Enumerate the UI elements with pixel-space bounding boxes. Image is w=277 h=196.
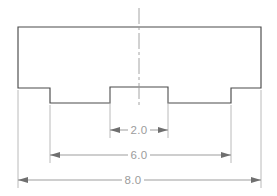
arrow-head-left-6-0 [50,152,60,158]
arrow-head-left-8-0 [18,177,28,183]
arrow-head-left-2-0 [110,127,120,133]
dimension-6-0: 6.0 [50,149,231,161]
dimension-text-2-0: 2.0 [130,124,147,136]
engineering-drawing-canvas: 2.0 6.0 8.0 [0,0,277,196]
arrow-head-right-2-0 [158,127,168,133]
dimension-text-6-0: 6.0 [130,149,147,161]
dimension-2-0: 2.0 [110,124,168,136]
dimension-8-0: 8.0 [18,174,261,186]
arrow-head-right-8-0 [251,177,261,183]
part-outline-stepped-block [18,27,261,103]
arrow-head-right-6-0 [221,152,231,158]
dimension-text-8-0: 8.0 [124,174,141,186]
cad-drawing-svg: 2.0 6.0 8.0 [0,0,277,196]
